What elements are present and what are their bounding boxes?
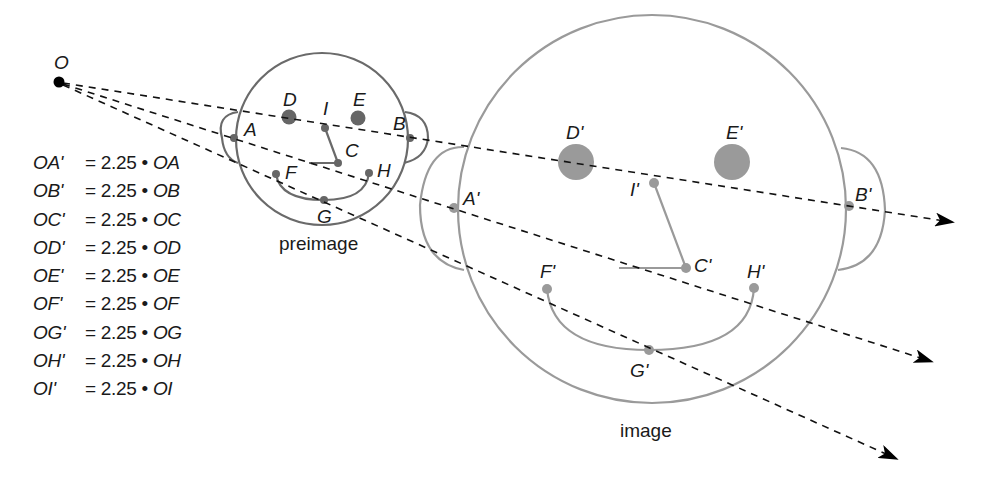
equation-e: OE'= 2.25 • OE [33, 262, 182, 290]
label-g: G [317, 206, 332, 227]
equation-factor: = 2.25 • [85, 209, 148, 230]
point-f-prime [542, 284, 552, 294]
label-c-prime: C' [694, 255, 713, 276]
equation-lhs: OH' [33, 347, 85, 375]
label-b-prime: B' [855, 184, 873, 205]
label-e: E [353, 89, 366, 110]
label-e-prime: E' [726, 122, 744, 143]
label-g-prime: G' [630, 360, 650, 381]
image-eye-d [558, 144, 594, 180]
equation-lhs: OG' [33, 319, 85, 347]
label-h: H [377, 160, 391, 181]
equation-rhs: OC [153, 209, 181, 230]
equation-rhs: OA [153, 152, 180, 173]
scale-equations: OA'= 2.25 • OA OB'= 2.25 • OB OC'= 2.25 … [33, 149, 182, 404]
point-h-prime [749, 283, 759, 293]
point-c-prime [681, 263, 691, 273]
image-caption: image [620, 420, 672, 441]
image-points [449, 144, 854, 355]
equation-f: OF'= 2.25 • OF [33, 290, 182, 318]
label-c: C [345, 140, 359, 161]
image-face [420, 15, 885, 403]
equation-factor: = 2.25 • [85, 378, 148, 399]
label-d-prime: D' [566, 122, 585, 143]
image-mouth [547, 288, 754, 350]
equation-lhs: OB' [33, 177, 85, 205]
equation-rhs: OH [153, 350, 181, 371]
center-point-o [54, 77, 65, 88]
equation-factor: = 2.25 • [85, 293, 148, 314]
equation-lhs: OE' [33, 262, 85, 290]
equation-lhs: OA' [33, 149, 85, 177]
equation-g: OG'= 2.25 • OG [33, 319, 182, 347]
equation-lhs: OF' [33, 290, 85, 318]
ray-through-b [63, 83, 951, 222]
label-b: B [393, 113, 406, 134]
point-f [272, 170, 280, 178]
equation-rhs: OE [153, 265, 180, 286]
equation-a: OA'= 2.25 • OA [33, 149, 182, 177]
point-h [365, 169, 373, 177]
ray-through-a [63, 84, 930, 361]
equation-factor: = 2.25 • [85, 180, 148, 201]
point-a [230, 134, 238, 142]
label-h-prime: H' [747, 261, 766, 282]
label-i-prime: I' [630, 179, 640, 200]
equation-factor: = 2.25 • [85, 152, 148, 173]
equation-rhs: OF [153, 293, 179, 314]
preimage-eye-e [351, 111, 366, 126]
label-f-prime: F' [540, 261, 557, 282]
equation-lhs: OC' [33, 206, 85, 234]
equation-i: OI'= 2.25 • OI [33, 375, 182, 403]
equation-factor: = 2.25 • [85, 350, 148, 371]
point-i [321, 124, 329, 132]
equation-rhs: OI [153, 378, 172, 399]
label-a: A [243, 119, 257, 140]
label-f: F [285, 162, 298, 183]
ray-through-g [63, 85, 895, 458]
point-i-prime [649, 178, 659, 188]
point-c [334, 159, 342, 167]
equation-factor: = 2.25 • [85, 237, 148, 258]
equation-factor: = 2.25 • [85, 322, 148, 343]
dilation-rays [63, 83, 951, 458]
equation-h: OH'= 2.25 • OH [33, 347, 182, 375]
equation-d: OD'= 2.25 • OD [33, 234, 182, 262]
equation-factor: = 2.25 • [85, 265, 148, 286]
label-o: O [54, 52, 69, 73]
image-head [458, 15, 846, 403]
image-eye-e [714, 144, 750, 180]
label-i: I [323, 98, 329, 119]
preimage-nose [309, 128, 338, 163]
equation-rhs: OB [153, 180, 180, 201]
equation-c: OC'= 2.25 • OC [33, 206, 182, 234]
equation-lhs: OI' [33, 375, 85, 403]
label-d: D [283, 89, 297, 110]
preimage-caption: preimage [279, 233, 358, 254]
equation-rhs: OD [153, 237, 181, 258]
equation-lhs: OD' [33, 234, 85, 262]
label-a-prime: A' [462, 188, 481, 209]
equation-b: OB'= 2.25 • OB [33, 177, 182, 205]
equation-rhs: OG [153, 322, 182, 343]
